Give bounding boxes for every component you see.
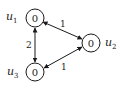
node-u3: 0 u3 bbox=[7, 63, 44, 81]
edge-u3-u2: 1 bbox=[44, 47, 82, 72]
edge-weight-u1-u3: 2 bbox=[26, 40, 32, 50]
node-u2: 0 u2 bbox=[82, 34, 117, 52]
node-label-u3: u3 bbox=[7, 65, 19, 80]
edge-weight-u1-u2: 1 bbox=[60, 19, 66, 29]
node-value-u3: 0 bbox=[32, 67, 38, 78]
edge-weight-u3-u2: 1 bbox=[61, 62, 67, 72]
node-label-u1: u1 bbox=[6, 10, 18, 25]
edge-u1-u3: 2 bbox=[26, 28, 35, 62]
node-value-u2: 0 bbox=[88, 38, 94, 49]
node-u1: 0 u1 bbox=[6, 9, 44, 27]
node-label-u2: u2 bbox=[105, 36, 117, 51]
node-value-u1: 0 bbox=[32, 13, 38, 24]
graph-diagram: 1 2 1 0 u1 0 u2 0 u3 bbox=[0, 0, 126, 87]
edge-u1-u2: 1 bbox=[43, 19, 82, 39]
